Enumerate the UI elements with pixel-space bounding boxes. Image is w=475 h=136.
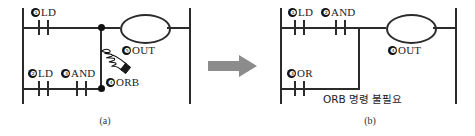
label-a-2-text: LD [38, 67, 53, 79]
coil-right-wire-b [433, 27, 456, 29]
output-coil-a [120, 14, 171, 44]
panel-a: ❶LD ❷LD ❸AND ❹ORB ❺OUT (a) [0, 0, 205, 136]
label-b-3-text: OR [297, 67, 313, 79]
label-a-orb-text: ORB [116, 76, 139, 88]
label-a-2: ❷LD [28, 67, 53, 79]
label-b-1: ❶LD [288, 6, 313, 18]
ladder-diagram-figure: ❶LD ❷LD ❸AND ❹ORB ❺OUT (a) [0, 0, 475, 136]
right-power-rail-a [189, 8, 191, 104]
marker-b-2: ❷ [321, 8, 330, 17]
label-a-3-text: AND [71, 67, 95, 79]
top-rung-wire-a [22, 27, 100, 29]
label-b-2: ❷AND [321, 6, 355, 18]
marker-a-1: ❶ [31, 8, 40, 17]
label-b-2-text: AND [331, 6, 355, 18]
branch-left-vertical-b [280, 27, 282, 89]
label-b-out-text: OUT [398, 44, 421, 56]
label-b-3: ❸OR [287, 67, 313, 79]
orb-not-required-note: ORB 명령 불필요 [323, 93, 402, 105]
label-a-3: ❸AND [61, 67, 95, 79]
contact-b-2 [335, 20, 346, 35]
bottom-rung-wire-b [280, 88, 360, 90]
label-a-out-text: OUT [132, 44, 155, 56]
junction-node-top-a [98, 24, 105, 31]
caption-a: (a) [85, 115, 125, 126]
pointing-hand-icon [98, 44, 132, 76]
marker-a-3: ❸ [61, 69, 70, 78]
panel-b: ❶LD ❷AND ❸OR ❹OUT ORB 명령 불필요 (b) [265, 0, 475, 136]
contact-a-3 [76, 81, 87, 96]
marker-b-out: ❹ [388, 46, 397, 55]
transition-arrow [208, 53, 258, 79]
label-a-1: ❶LD [31, 6, 56, 18]
caption-b: (b) [350, 115, 390, 126]
output-coil-b [386, 14, 437, 44]
right-power-rail-b [455, 8, 457, 104]
contact-a-1 [38, 20, 49, 35]
contact-b-3 [294, 81, 305, 96]
marker-a-orb: ❹ [106, 78, 115, 87]
junction-node-bottom-a [98, 85, 105, 92]
marker-b-3: ❸ [287, 69, 296, 78]
contact-b-1 [294, 20, 305, 35]
label-b-1-text: LD [298, 6, 313, 18]
coil-right-wire-a [167, 27, 190, 29]
branch-right-vertical-b [358, 27, 360, 89]
marker-b-1: ❶ [288, 8, 297, 17]
label-b-out: ❹OUT [388, 44, 421, 56]
contact-a-2 [38, 81, 49, 96]
marker-a-2: ❷ [28, 69, 37, 78]
bottom-rung-wire-a [22, 88, 102, 90]
label-a-1-text: LD [41, 6, 56, 18]
label-a-orb: ❹ORB [106, 76, 139, 88]
